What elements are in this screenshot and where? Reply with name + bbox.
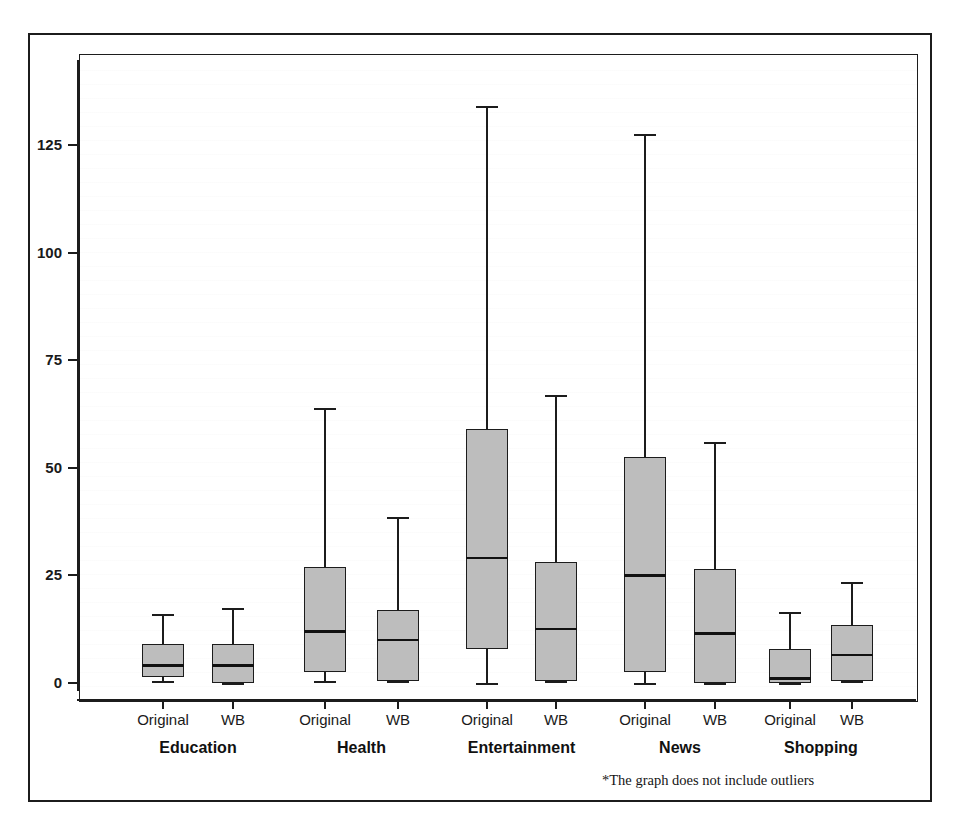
upper-whisker-line — [232, 608, 234, 645]
x-tick-education-original — [162, 700, 164, 709]
upper-whisker-line — [714, 442, 716, 569]
y-tick-label-75: 75 — [10, 352, 62, 367]
y-tick-50 — [68, 467, 78, 469]
y-tick-label-0: 0 — [10, 675, 62, 690]
upper-whisker-line — [644, 134, 646, 457]
x-tick-shopping-original — [789, 700, 791, 709]
y-tick-25 — [68, 574, 78, 576]
upper-whisker-line — [162, 614, 164, 644]
median-line — [769, 677, 811, 680]
x-tick-health-wb — [397, 700, 399, 709]
y-tick-75 — [68, 359, 78, 361]
median-line — [142, 664, 184, 667]
lower-whisker-cap — [704, 683, 726, 685]
lower-whisker-cap — [779, 683, 801, 685]
upper-whisker-line — [851, 582, 853, 625]
x-tick-news-original — [644, 700, 646, 709]
upper-whisker-cap — [841, 582, 863, 584]
upper-whisker-line — [486, 106, 488, 429]
upper-whisker-line — [324, 408, 326, 567]
lower-whisker-line — [644, 672, 646, 683]
upper-whisker-cap — [314, 408, 336, 410]
box-iqr — [142, 644, 184, 676]
y-tick-label-50: 50 — [10, 460, 62, 475]
lower-whisker-cap — [476, 683, 498, 685]
median-line — [694, 632, 736, 635]
y-tick-label-125: 125 — [10, 137, 62, 152]
upper-whisker-line — [397, 517, 399, 610]
upper-whisker-cap — [476, 106, 498, 108]
median-line — [466, 557, 508, 560]
lower-whisker-cap — [314, 681, 336, 683]
x-tick-entertainment-original — [486, 700, 488, 709]
y-tick-label-25: 25 — [10, 567, 62, 582]
x-tick-news-wb — [714, 700, 716, 709]
lower-whisker-line — [486, 649, 488, 683]
lower-whisker-cap — [634, 683, 656, 685]
lower-whisker-cap — [222, 683, 244, 685]
lower-whisker-cap — [152, 681, 174, 683]
box-iqr — [535, 562, 577, 680]
x-tick-entertainment-wb — [555, 700, 557, 709]
x-tick-education-wb — [232, 700, 234, 709]
y-tick-125 — [68, 144, 78, 146]
upper-whisker-cap — [779, 612, 801, 614]
upper-whisker-cap — [152, 614, 174, 616]
median-line — [377, 639, 419, 642]
chart-footnote: *The graph does not include outliers — [602, 772, 814, 789]
box-iqr — [624, 457, 666, 672]
y-tick-label-100: 100 — [10, 245, 62, 260]
y-tick-100 — [68, 252, 78, 254]
upper-whisker-cap — [634, 134, 656, 136]
lower-whisker-cap — [841, 681, 863, 683]
lower-whisker-cap — [545, 681, 567, 683]
upper-whisker-cap — [222, 608, 244, 610]
upper-whisker-cap — [704, 442, 726, 444]
median-line — [304, 630, 346, 633]
x-tick-health-original — [324, 700, 326, 709]
x-condition-label-shopping-wb: WB — [792, 712, 912, 729]
upper-whisker-line — [555, 395, 557, 563]
median-line — [624, 574, 666, 577]
y-axis-line — [77, 60, 79, 691]
median-line — [212, 664, 254, 667]
upper-whisker-cap — [545, 395, 567, 397]
x-tick-shopping-wb — [851, 700, 853, 709]
upper-whisker-line — [789, 612, 791, 649]
lower-whisker-line — [324, 672, 326, 681]
lower-whisker-cap — [387, 681, 409, 683]
box-iqr — [694, 569, 736, 683]
figure-outer-frame: *The graph does not include outliers — [28, 33, 932, 802]
box-iqr — [377, 610, 419, 681]
median-line — [535, 628, 577, 631]
x-group-label-shopping: Shopping — [721, 739, 921, 757]
box-iqr — [466, 429, 508, 649]
median-line — [831, 654, 873, 657]
upper-whisker-cap — [387, 517, 409, 519]
box-iqr — [304, 567, 346, 672]
y-tick-0 — [68, 682, 78, 684]
